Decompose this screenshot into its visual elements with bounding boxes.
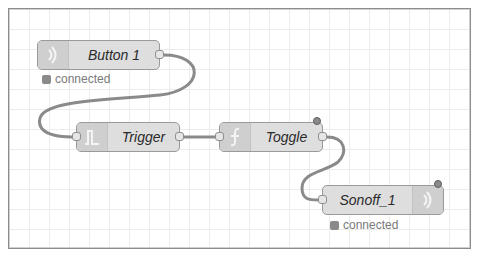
changed-indicator-icon (434, 180, 442, 188)
trigger-pulse-icon (77, 123, 108, 151)
node-label: Button 1 (69, 47, 159, 63)
node-label: Trigger (108, 129, 179, 145)
status-text: connected (343, 218, 398, 232)
node-label: Toggle (251, 129, 322, 145)
node-sonoff1[interactable]: Sonoff_1 (322, 185, 444, 215)
node-label: Sonoff_1 (323, 192, 412, 208)
status-square-icon (330, 221, 339, 230)
wifi-signal-icon (412, 186, 443, 214)
output-port[interactable] (175, 132, 184, 141)
node-toggle[interactable]: Toggle (219, 122, 323, 152)
output-port[interactable] (318, 132, 327, 141)
node-status-button1: connected (42, 72, 110, 86)
input-port[interactable] (215, 132, 224, 141)
node-button1[interactable]: Button 1 (37, 40, 160, 70)
status-text: connected (55, 72, 110, 86)
output-port[interactable] (155, 50, 164, 59)
wifi-signal-icon (38, 41, 69, 69)
node-status-sonoff1: connected (330, 218, 398, 232)
changed-indicator-icon (313, 117, 321, 125)
input-port[interactable] (318, 195, 327, 204)
function-icon (220, 123, 251, 151)
status-square-icon (42, 75, 51, 84)
node-trigger[interactable]: Trigger (76, 122, 180, 152)
input-port[interactable] (72, 132, 81, 141)
